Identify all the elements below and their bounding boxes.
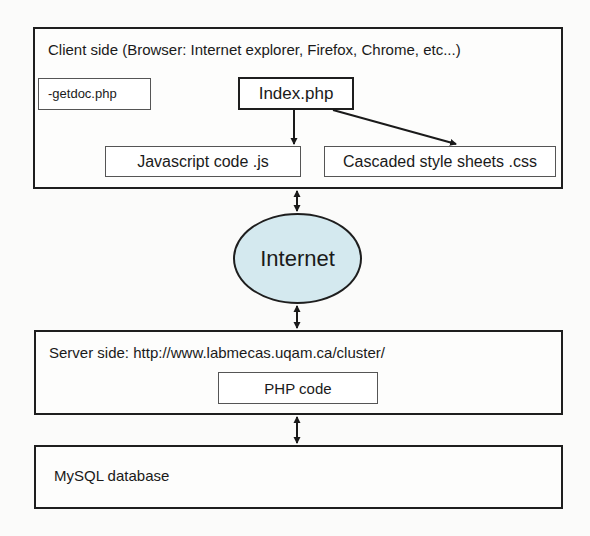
- index-php-node: Index.php: [238, 77, 354, 110]
- mysql-database-box: MySQL database: [34, 445, 563, 509]
- php-code-node: PHP code: [218, 372, 378, 404]
- css-label: Cascaded style sheets .css: [343, 153, 537, 171]
- javascript-label: Javascript code .js: [137, 153, 269, 171]
- internet-node: Internet: [233, 213, 362, 304]
- server-side-title: Server side: http://www.labmecas.uqam.ca…: [49, 344, 385, 361]
- css-node: Cascaded style sheets .css: [324, 146, 556, 177]
- internet-label: Internet: [260, 246, 335, 272]
- php-code-label: PHP code: [264, 380, 331, 397]
- getdoc-php-node: -getdoc.php: [38, 78, 151, 110]
- mysql-database-title: MySQL database: [54, 467, 169, 484]
- javascript-node: Javascript code .js: [105, 146, 301, 177]
- index-php-label: Index.php: [259, 84, 334, 104]
- getdoc-php-label: -getdoc.php: [48, 86, 117, 101]
- client-side-title: Client side (Browser: Internet explorer,…: [48, 41, 461, 58]
